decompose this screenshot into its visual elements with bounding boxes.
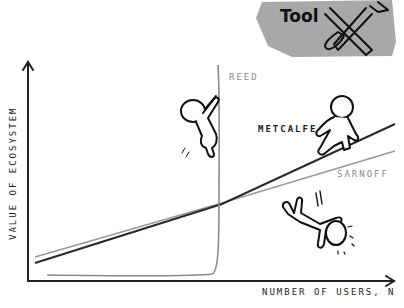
metcalfe-label: METCALFE	[258, 124, 317, 134]
sarnoff-label: SARNOFF	[337, 169, 389, 179]
x-axis-label: NUMBER OF USERS, N	[262, 287, 396, 297]
tool-badge	[256, 0, 396, 57]
falling-figure-icon	[283, 191, 354, 254]
chart-canvas	[0, 0, 404, 308]
tool-label: Tool	[280, 6, 319, 26]
climbing-figure-icon	[181, 96, 219, 157]
y-axis-label: VALUE OF ECOSYSTEM	[8, 110, 18, 240]
walking-figure-icon	[316, 96, 358, 155]
reed-label: REED	[229, 72, 259, 82]
reed-curve	[47, 65, 219, 276]
